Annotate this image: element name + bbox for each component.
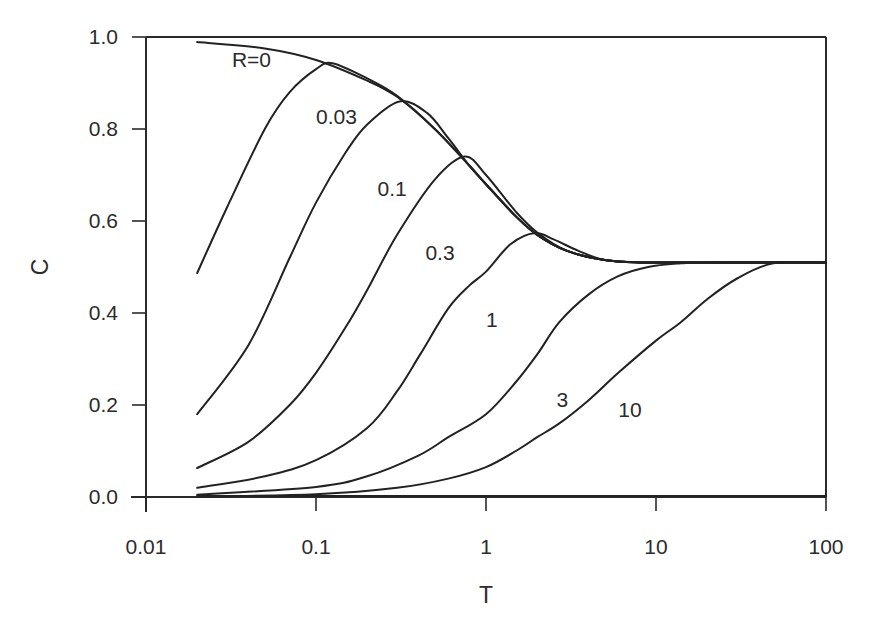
- y-axis-ticks: 0.00.20.40.60.81.0: [89, 25, 146, 508]
- chart: 0.00.20.40.60.81.0 0.010.1110100 R=00.03…: [0, 0, 873, 623]
- x-tick-label: 1: [480, 535, 492, 558]
- y-tick-label: 0.8: [89, 117, 118, 140]
- curve-label-r-0-3: 0.3: [425, 241, 454, 264]
- y-tick-label: 1.0: [89, 25, 118, 48]
- curve-label-r-0: R=0: [232, 48, 271, 71]
- y-tick-label: 0.0: [89, 485, 118, 508]
- x-axis-title: T: [479, 582, 493, 608]
- y-axis-title: C: [27, 259, 53, 276]
- curve-labels: R=00.030.10.31310: [232, 48, 642, 421]
- x-tick-label: 0.01: [126, 535, 167, 558]
- curve-r-1: [197, 233, 826, 488]
- plot-frame: [131, 37, 826, 512]
- y-tick-label: 0.4: [89, 301, 119, 324]
- curve-r-0-03: [197, 63, 826, 273]
- x-tick-label: 10: [644, 535, 667, 558]
- x-tick-label: 100: [808, 535, 843, 558]
- curve-r-10: [197, 262, 826, 497]
- curve-label-r-3: 3: [557, 388, 569, 411]
- curve-label-r-1: 1: [486, 308, 498, 331]
- curve-r-0-3: [197, 157, 826, 468]
- curve-r-0: [197, 42, 826, 262]
- curve-label-r-0-1: 0.1: [377, 177, 406, 200]
- curve-r-0-1: [197, 101, 826, 414]
- curve-r-3: [197, 262, 826, 494]
- y-tick-label: 0.2: [89, 393, 118, 416]
- curve-label-r-0-03: 0.03: [316, 105, 357, 128]
- x-tick-label: 0.1: [301, 535, 330, 558]
- y-tick-label: 0.6: [89, 209, 118, 232]
- curves: [197, 42, 826, 496]
- curve-label-r-10: 10: [618, 398, 641, 421]
- x-axis-ticks: 0.010.1110100: [126, 497, 844, 558]
